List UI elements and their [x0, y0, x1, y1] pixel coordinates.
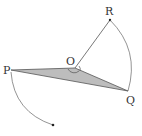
label-R: R: [105, 5, 114, 18]
arc-R-to-Q: [110, 20, 131, 91]
label-Q: Q: [126, 94, 135, 107]
rotation-diagram: P O R Q: [0, 0, 142, 136]
label-P: P: [3, 64, 11, 77]
segment-OR: [75, 20, 110, 68]
label-O: O: [66, 55, 75, 68]
arc-end-dot: [52, 124, 55, 127]
arc-P-rotation: [11, 72, 53, 125]
